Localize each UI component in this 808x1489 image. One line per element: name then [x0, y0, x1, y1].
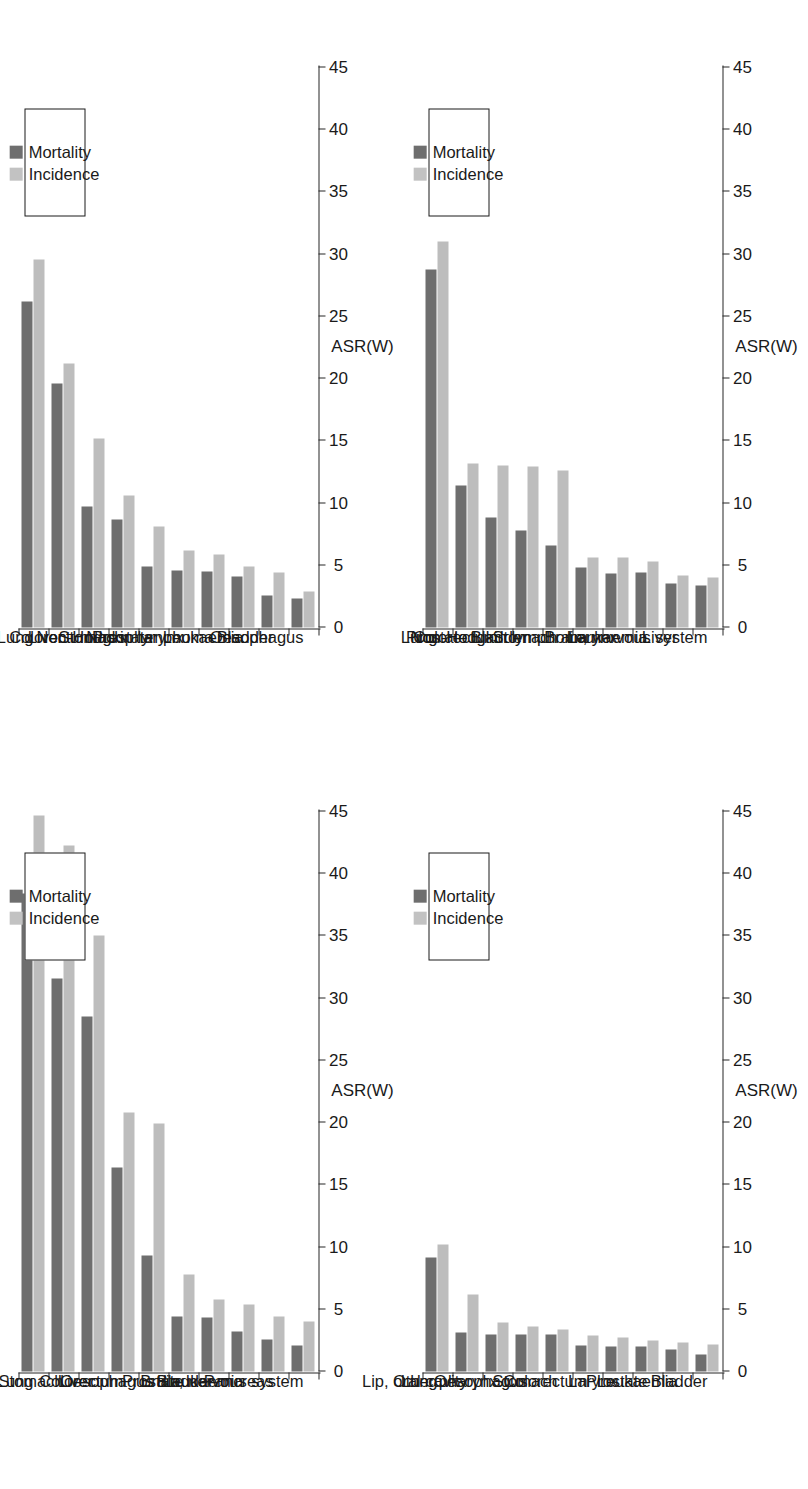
axis-tick-label: 5 — [737, 555, 746, 575]
axis-tick — [722, 190, 729, 191]
axis-tick-label: 5 — [737, 1299, 746, 1319]
category-label-slot: Pancreas — [258, 1375, 288, 1489]
axis-tick — [318, 66, 325, 67]
category-label-slot: Stomach — [542, 631, 572, 745]
axis-tick-label: 25 — [329, 306, 348, 326]
axis-tick-label: 15 — [329, 430, 348, 450]
axis-tick — [722, 253, 729, 254]
category-label-slot: Brain, nervous system — [692, 631, 722, 745]
category-label-slot: Liver — [662, 631, 692, 745]
axis-tick — [722, 1370, 729, 1371]
axis-tick-label: 0 — [737, 617, 746, 637]
axis-tick-label: 35 — [733, 181, 752, 201]
axis-tick — [318, 1121, 325, 1122]
legend-item-incidence: Incidence — [9, 163, 99, 185]
bar-mortality — [635, 1346, 646, 1371]
bar-incidence — [467, 1294, 478, 1371]
bar-mortality — [231, 576, 242, 627]
axis-tick-label: 0 — [333, 1361, 342, 1381]
category-label-slot: Liver — [48, 631, 78, 745]
category-label-slot: Bladder — [692, 1375, 722, 1489]
chart-panel-top-right: 051015202530354045ASR(W)LungProstateColo… — [404, 0, 808, 745]
bar-mortality — [695, 1354, 706, 1371]
axis-tick — [318, 872, 325, 873]
category-label-slot: Lung — [422, 631, 452, 745]
axis-tick-label: 5 — [333, 555, 342, 575]
bar-incidence — [707, 577, 718, 627]
axis-tick-label: 30 — [329, 988, 348, 1008]
category-label-slot: Bladder — [258, 631, 288, 745]
bar-mortality — [261, 595, 272, 627]
bar-incidence — [153, 526, 164, 627]
axis-tick — [722, 377, 729, 378]
category-label-slot: Larynx — [602, 631, 632, 745]
legend-label-mortality: Mortality — [28, 886, 90, 905]
bar-incidence — [527, 1326, 538, 1371]
bar-incidence — [557, 470, 568, 627]
axis-tick-label: 10 — [733, 493, 752, 513]
axis-tick — [318, 502, 325, 503]
category-label-slot: Prostate — [138, 631, 168, 745]
bar-mortality — [605, 574, 616, 628]
category-label-slot: Bladder — [512, 631, 542, 745]
axis-tick-label: 20 — [733, 368, 752, 388]
axis-tick — [318, 1183, 325, 1184]
category-label-slot: Leukaemia — [228, 1375, 258, 1489]
axis-tick — [722, 1308, 729, 1309]
bar-mortality — [51, 978, 62, 1371]
axis-tick — [318, 439, 325, 440]
category-label-slot: Leukaemia — [662, 1375, 692, 1489]
bar-incidence — [677, 1342, 688, 1371]
bar-mortality — [545, 545, 556, 627]
bar-mortality — [291, 598, 302, 627]
axis-tick — [722, 934, 729, 935]
bar-incidence — [437, 241, 448, 627]
bar-mortality — [21, 301, 32, 627]
axis-tick-label: 45 — [329, 57, 348, 77]
axis-tick — [722, 1059, 729, 1060]
axis-tick-label: 25 — [329, 1050, 348, 1070]
axis-tick — [318, 128, 325, 129]
axis-tick — [722, 128, 729, 129]
bar-mortality — [141, 566, 152, 627]
axis-tick — [318, 564, 325, 565]
category-label-slot: Lip, oral cavity — [452, 1375, 482, 1489]
legend-swatch-incidence-icon — [413, 911, 426, 924]
category-label: Bladder — [650, 1372, 707, 1391]
bar-mortality — [575, 567, 586, 627]
legend: MortalityIncidence — [428, 852, 489, 961]
legend-label-mortality: Mortality — [28, 142, 90, 161]
axis-tick-label: 25 — [733, 1050, 752, 1070]
legend: MortalityIncidence — [24, 108, 85, 217]
category-label-slot: Nasopharynx — [168, 631, 198, 745]
bar-mortality — [455, 485, 466, 627]
category-label-slot: Stomach — [542, 1375, 572, 1489]
legend: MortalityIncidence — [428, 108, 489, 217]
axis-tick-label: 10 — [329, 493, 348, 513]
bar-mortality — [665, 583, 676, 627]
legend-swatch-mortality-icon — [9, 145, 22, 158]
legend-label-incidence: Incidence — [28, 164, 99, 183]
axis-tick — [722, 810, 729, 811]
bar-incidence — [243, 566, 254, 627]
category-label-slot: Colorectum — [482, 631, 512, 745]
legend-item-mortality: Mortality — [413, 141, 503, 163]
bar-mortality — [485, 518, 496, 628]
category-label-slot: Stomach — [108, 631, 138, 745]
bar-mortality — [425, 269, 436, 627]
axis-tick — [318, 1246, 325, 1247]
bar-mortality — [605, 1346, 616, 1371]
axis-tick-label: 45 — [733, 57, 752, 77]
axis-tick — [722, 626, 729, 627]
legend-label-incidence: Incidence — [432, 908, 503, 927]
bar-incidence — [123, 1112, 134, 1371]
axis-tick-label: 45 — [733, 801, 752, 821]
legend-item-incidence: Incidence — [9, 907, 99, 929]
bar-incidence — [303, 1321, 314, 1371]
bar-incidence — [557, 1329, 568, 1371]
axis-tick-label: 40 — [329, 119, 348, 139]
bar-mortality — [261, 1339, 272, 1371]
bar-incidence — [617, 1337, 628, 1371]
axis-tick-label: 30 — [733, 244, 752, 264]
axis-tick — [722, 997, 729, 998]
